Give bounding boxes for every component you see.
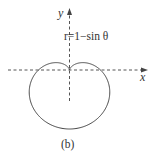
y-axis-label: y [57, 6, 64, 20]
cardioid-figure: y x r=1−sin θ (b) [0, 0, 156, 158]
equation-label: r=1−sin θ [64, 30, 109, 42]
y-axis-arrow-icon [67, 8, 72, 15]
figure-caption: (b) [61, 138, 75, 151]
x-axis-label: x [139, 70, 146, 84]
